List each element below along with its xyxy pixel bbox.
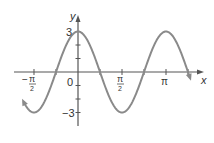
y-axis-label: y	[69, 10, 77, 22]
y-tick-label-min: −3	[62, 107, 75, 119]
origin-label: 0	[67, 76, 73, 88]
cosine-graph: y x 3 −3 0 − π 2 π 2 π	[0, 0, 214, 143]
x-tick-neg-pi-half-num: π	[29, 74, 35, 84]
y-tick-label-max: 3	[66, 26, 72, 38]
x-tick-neg-pi-half-den: 2	[30, 85, 34, 92]
x-axis-label: x	[200, 74, 207, 86]
y-axis-arrow-icon	[76, 15, 81, 22]
x-tick-pi-half-num: π	[117, 74, 123, 84]
x-tick-pi-half-den: 2	[118, 85, 122, 92]
x-tick-pi: π	[161, 76, 168, 87]
x-tick-minus-sign: −	[22, 74, 28, 85]
curve-arrow-icon	[186, 73, 192, 81]
